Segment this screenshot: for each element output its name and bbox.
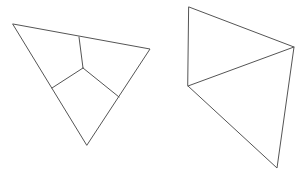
spoke-to-top-edge xyxy=(79,37,83,68)
spoke-to-left-edge xyxy=(52,68,83,88)
spoke-to-right-edge xyxy=(83,68,119,97)
diagram-canvas xyxy=(0,0,305,175)
subdivided-triangle xyxy=(13,24,150,145)
quadrilateral-diagonal xyxy=(188,47,294,86)
quadrilateral-outline xyxy=(188,7,294,168)
split-quadrilateral xyxy=(188,7,294,168)
triangle-outline xyxy=(13,24,150,145)
